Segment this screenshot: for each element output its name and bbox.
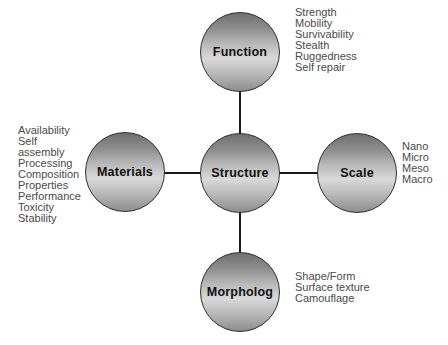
node-morphology-label: Morpholog xyxy=(207,285,273,299)
node-morphology: Morpholog xyxy=(200,252,280,332)
scale-item-list: Nano Micro Meso Macro xyxy=(402,141,433,185)
list-item: Macro xyxy=(402,174,433,185)
node-materials: Materials xyxy=(85,132,165,212)
diagram-canvas: Function Materials Structure Scale Morph… xyxy=(0,0,448,345)
function-item-list: Strength Mobility Survivability Stealth … xyxy=(295,7,357,73)
node-structure-label: Structure xyxy=(211,166,268,180)
connector-structure-scale xyxy=(279,172,318,174)
list-item: Stability xyxy=(18,213,81,224)
node-structure: Structure xyxy=(200,133,280,213)
node-materials-label: Materials xyxy=(97,165,153,179)
materials-item-list: Availability Self assembly Processing Co… xyxy=(18,125,81,224)
list-item: Camouflage xyxy=(295,293,370,304)
morphology-item-list: Shape/Form Surface texture Camouflage xyxy=(295,271,370,304)
node-function: Function xyxy=(200,12,280,92)
node-scale: Scale xyxy=(317,133,397,213)
connector-function-structure xyxy=(239,91,241,134)
connector-materials-structure xyxy=(164,172,201,174)
list-item: Self repair xyxy=(295,62,357,73)
node-scale-label: Scale xyxy=(340,166,374,180)
connector-structure-morphology xyxy=(239,212,241,253)
node-function-label: Function xyxy=(213,45,267,59)
